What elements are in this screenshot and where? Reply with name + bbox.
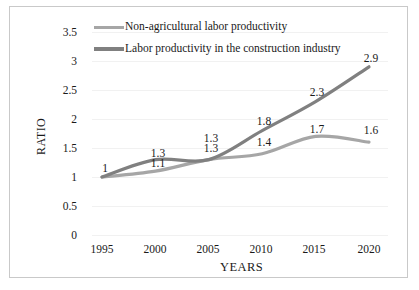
x-axis-title: YEARS <box>83 260 400 275</box>
data-label-construction-2020: 2.9 <box>364 52 378 64</box>
data-label-nonag-2010: 1.4 <box>257 136 271 148</box>
x-tick-label-2000: 2000 <box>144 243 167 255</box>
y-tick-label: 2 <box>31 114 77 126</box>
data-label-nonag-2000: 1.1 <box>151 157 165 169</box>
x-tick-label-1995: 1995 <box>91 243 114 255</box>
plot-area: 1 1.3 1.3 1.8 2.3 2.9 1.1 1.4 1.7 1.6 1.… <box>83 7 400 279</box>
data-label-construction-1995: 1 <box>102 162 108 174</box>
y-tick-label: 2.5 <box>31 85 77 97</box>
data-label-nonag-2015: 1.7 <box>310 123 324 135</box>
y-tick-label: 0 <box>31 230 77 242</box>
series-lines <box>83 7 400 279</box>
x-tick-label-2010: 2010 <box>250 243 273 255</box>
x-tick-label-2005: 2005 <box>197 243 220 255</box>
y-tick-label: 3 <box>31 56 77 68</box>
y-tick-label: 0.5 <box>31 201 77 213</box>
chart-figure: Non-agricultural labor productivity Labo… <box>0 0 419 290</box>
chart-frame: Non-agricultural labor productivity Labo… <box>9 6 408 278</box>
data-label-nonag-2005: 1.3 <box>204 132 218 144</box>
y-tick-label: 3.5 <box>31 27 77 39</box>
line-construction <box>102 67 369 177</box>
y-axis-ticks: 3.5 3 2.5 2 1.5 1 0.5 0 <box>31 7 77 279</box>
x-tick-label-2020: 2020 <box>358 243 381 255</box>
data-label-construction-2010: 1.8 <box>257 115 271 127</box>
y-tick-label: 1.5 <box>31 143 77 155</box>
data-label-construction-2015: 2.3 <box>310 86 324 98</box>
data-label-nonag-2020: 1.6 <box>364 124 378 136</box>
x-tick-label-2015: 2015 <box>303 243 326 255</box>
y-tick-label: 1 <box>31 172 77 184</box>
line-nonagricultural <box>102 136 369 177</box>
